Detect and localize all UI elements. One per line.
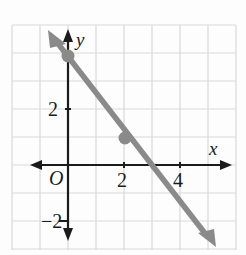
point-0-4: [62, 50, 75, 63]
tick-label-y-2: 2: [48, 99, 58, 119]
tick-label-x-2: 2: [117, 170, 127, 190]
coordinate-plane-figure: y x O 2 −2 2 4: [0, 0, 246, 255]
origin-label: O: [49, 168, 63, 188]
line-arrow-upper-left-icon: [48, 30, 66, 48]
tick-label-x-4: 4: [173, 170, 183, 190]
x-axis-arrow-right-icon: [220, 160, 232, 170]
x-axis-arrow-left-icon: [30, 160, 42, 170]
y-axis-arrow-up-icon: [63, 29, 73, 42]
y-axis-arrow-down-icon: [63, 228, 73, 241]
y-axis-label: y: [76, 30, 84, 49]
tick-label-y-neg2: −2: [41, 211, 62, 231]
graph-canvas: [0, 0, 246, 255]
plotted-line: [48, 30, 216, 247]
x-axis-label: x: [209, 139, 217, 158]
point-2-1: [119, 132, 132, 145]
